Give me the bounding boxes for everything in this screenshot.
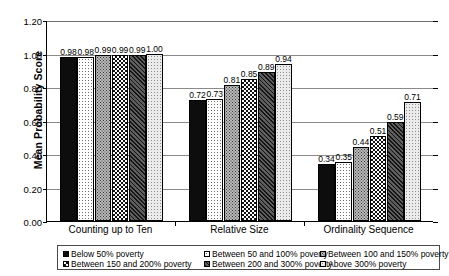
bar: 0.99 (95, 55, 112, 221)
legend-label: Below 50% poverty (71, 249, 144, 259)
bar: 0.59 (387, 122, 404, 221)
bar: 0.81 (224, 85, 241, 221)
legend-swatch (63, 251, 69, 257)
bar: 0.34 (318, 164, 335, 221)
bar: 0.35 (335, 162, 352, 221)
legend-label: Between 150 and 200% poverty (71, 259, 192, 269)
bar-value-label: 0.94 (275, 54, 292, 64)
category-tick (304, 222, 305, 226)
category-label: Counting up to Ten (46, 224, 175, 235)
legend: Below 50% povertyBetween 50 and 100% pov… (57, 245, 440, 270)
legend-label: Above 300% poverty (328, 259, 406, 269)
bar-value-label: 0.99 (129, 45, 146, 55)
y-tick-mark (43, 222, 47, 223)
category-label: Relative Size (175, 224, 304, 235)
bar: 0.99 (112, 55, 129, 221)
bar-group: 0.980.980.990.990.991.00 (47, 21, 176, 221)
legend-swatch (320, 251, 326, 257)
bar-value-label: 0.98 (77, 47, 94, 57)
category-tick (175, 222, 176, 226)
bar: 0.98 (60, 57, 77, 221)
bar-group: 0.340.350.440.510.590.71 (305, 21, 434, 221)
bar-value-label: 0.73 (206, 89, 223, 99)
legend-item[interactable]: Between 200 and 300% poverty (204, 259, 333, 269)
bar: 0.94 (275, 64, 292, 221)
legend-item[interactable]: Below 50% poverty (63, 249, 144, 259)
y-tick-label: 0.60 (24, 116, 43, 127)
bar: 0.85 (241, 79, 258, 221)
bar-value-label: 0.34 (318, 154, 335, 164)
bar-value-label: 0.99 (112, 45, 129, 55)
bar: 0.98 (77, 57, 94, 221)
bar-value-label: 0.85 (241, 69, 258, 79)
plot-area: 0.000.200.400.600.801.001.20 0.980.980.9… (46, 21, 433, 222)
y-tick-mark-right (433, 222, 438, 223)
legend-item[interactable]: Between 100 and 150% poverty (320, 249, 449, 259)
legend-label: Between 50 and 100% poverty (212, 249, 328, 259)
legend-swatch (320, 261, 326, 267)
bar-value-label: 0.71 (404, 92, 421, 102)
bar: 0.44 (353, 147, 370, 221)
bar-value-label: 0.81 (224, 75, 241, 85)
legend-item[interactable]: Between 150 and 200% poverty (63, 259, 192, 269)
legend-swatch (204, 251, 210, 257)
y-tick-label: 0.80 (24, 83, 43, 94)
bar-value-label: 0.35 (335, 152, 352, 162)
bar: 0.71 (404, 102, 421, 221)
bar-value-label: 0.44 (353, 137, 370, 147)
bar: 0.99 (129, 55, 146, 221)
legend-label: Between 200 and 300% poverty (212, 259, 333, 269)
bar-groups: 0.980.980.990.990.991.000.720.730.810.85… (47, 21, 433, 221)
bar-value-label: 0.51 (370, 126, 387, 136)
bar: 1.00 (146, 54, 163, 222)
bar-value-label: 0.99 (95, 45, 112, 55)
y-tick-label: 0.00 (24, 217, 43, 228)
bar: 0.72 (189, 100, 206, 221)
bar: 0.73 (206, 99, 223, 221)
bar: 0.51 (370, 136, 387, 221)
y-tick-label: 0.20 (24, 183, 43, 194)
y-tick-label: 1.20 (24, 16, 43, 27)
legend-item[interactable]: Above 300% poverty (320, 259, 406, 269)
legend-swatch (63, 261, 69, 267)
legend-swatch (204, 261, 210, 267)
legend-item[interactable]: Between 50 and 100% poverty (204, 249, 328, 259)
category-label: Ordinality Sequence (304, 224, 433, 235)
bar: 0.89 (258, 72, 275, 221)
bar-value-label: 1.00 (146, 44, 163, 54)
legend-label: Between 100 and 150% poverty (328, 249, 449, 259)
y-tick-label: 0.40 (24, 150, 43, 161)
bar-value-label: 0.59 (387, 112, 404, 122)
bar-value-label: 0.98 (60, 47, 77, 57)
bar-group: 0.720.730.810.850.890.94 (176, 21, 305, 221)
bar-value-label: 0.89 (258, 62, 275, 72)
bar-value-label: 0.72 (189, 90, 206, 100)
y-axis-title: Mean Probability Score (32, 10, 44, 210)
y-tick-label: 1.00 (24, 49, 43, 60)
